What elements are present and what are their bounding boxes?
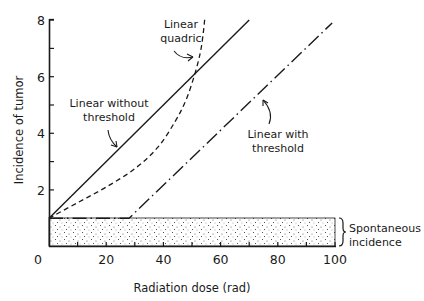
annotation-spontaneous-line2: incidence bbox=[349, 236, 402, 249]
annotation-linear-without-threshold-line1: Linear without bbox=[69, 97, 149, 110]
y-tick-label: 8 bbox=[37, 13, 45, 28]
y-axis-title: Incidence of tumor bbox=[12, 76, 26, 185]
x-tick-label: 100 bbox=[323, 252, 347, 267]
arrow-linear-without-threshold bbox=[108, 130, 117, 147]
y-axis-ticks: 2468 bbox=[37, 13, 54, 198]
annotation-linear-without-threshold-line2: threshold bbox=[83, 111, 135, 124]
y-tick-label: 2 bbox=[37, 183, 45, 198]
annotation-linear-with-threshold-line2: threshold bbox=[252, 142, 304, 155]
arrow-linear-quadric bbox=[174, 51, 193, 58]
annotation-linear-quadric-line2: quadric bbox=[160, 32, 201, 45]
annotation-linear-with-threshold-line1: Linear with bbox=[247, 128, 308, 141]
x-tick-label: 20 bbox=[98, 252, 114, 267]
dose-response-chart: 2468 020406080100 Linear quadric Linear … bbox=[0, 0, 424, 301]
spontaneous-incidence-band bbox=[49, 218, 335, 246]
x-tick-label: 60 bbox=[213, 252, 229, 267]
brace-icon bbox=[339, 218, 346, 246]
annotation-spontaneous-line1: Spontaneous bbox=[349, 222, 421, 235]
x-tick-label: 0 bbox=[34, 252, 42, 267]
x-axis-title: Radiation dose (rad) bbox=[133, 281, 250, 295]
arrow-linear-with-threshold bbox=[263, 100, 271, 124]
line-linear-without-threshold bbox=[49, 20, 249, 218]
x-tick-label: 40 bbox=[155, 252, 171, 267]
y-tick-label: 4 bbox=[37, 126, 45, 141]
annotation-linear-quadric-line1: Linear bbox=[164, 18, 199, 31]
x-tick-label: 80 bbox=[270, 252, 286, 267]
y-tick-label: 6 bbox=[37, 70, 45, 85]
